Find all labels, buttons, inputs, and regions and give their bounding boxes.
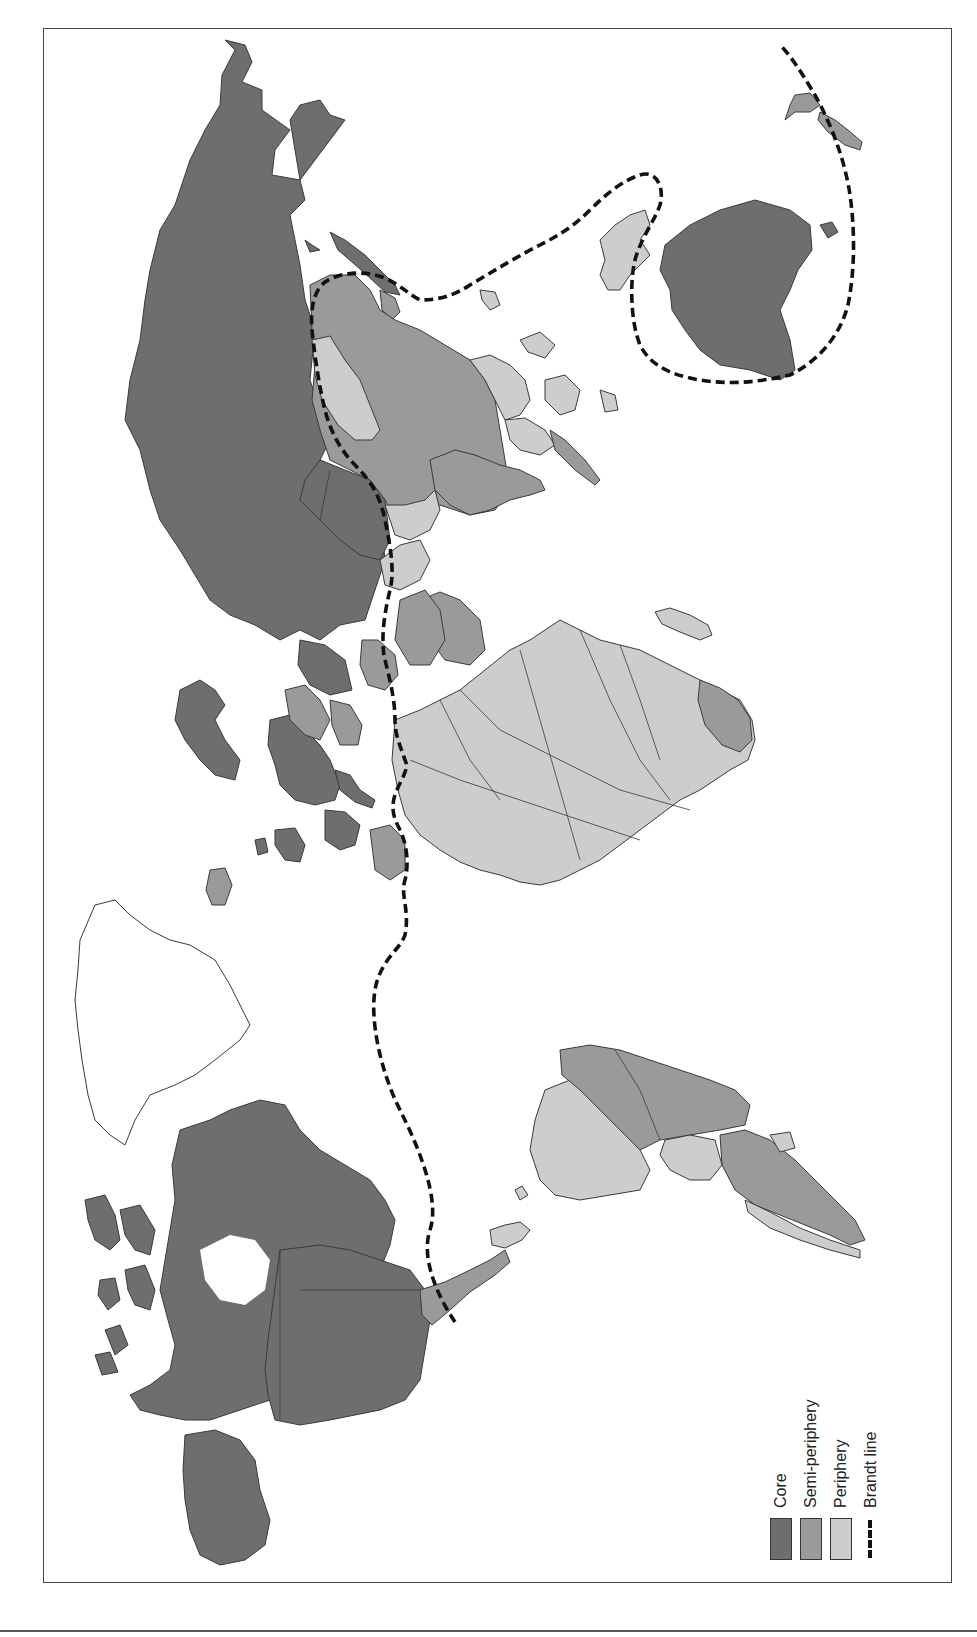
legend-item-semi-periphery: Semi-periphery xyxy=(800,1330,826,1560)
brandt-line-swatch-icon xyxy=(868,1520,872,1558)
region-usa xyxy=(265,1245,430,1425)
region-arctic-islands-1 xyxy=(85,1195,120,1250)
region-bolivia-paraguay xyxy=(660,1135,722,1180)
region-arctic-islands-4 xyxy=(98,1278,120,1310)
region-new-zealand-south xyxy=(818,112,862,150)
legend: Core Semi-periphery Periphery Brandt lin… xyxy=(770,1330,940,1560)
legend-label-semi-periphery: Semi-periphery xyxy=(802,1400,820,1508)
region-ireland xyxy=(255,838,268,855)
region-uk xyxy=(275,828,305,862)
region-arctic-islands-5 xyxy=(105,1325,128,1355)
periphery-swatch xyxy=(830,1518,852,1560)
region-new-guinea xyxy=(600,210,650,290)
region-sulawesi xyxy=(520,332,555,358)
region-sakhalin xyxy=(305,240,320,252)
legend-item-periphery: Periphery xyxy=(830,1330,856,1560)
region-caribbean xyxy=(515,1186,528,1200)
region-philippines xyxy=(480,290,500,310)
region-indochina xyxy=(505,418,555,455)
region-greenland xyxy=(75,900,250,1145)
region-turkey xyxy=(360,640,398,690)
region-iberia xyxy=(325,810,360,850)
region-arctic-islands-2 xyxy=(120,1205,155,1255)
legend-label-core: Core xyxy=(772,1473,790,1508)
region-australia xyxy=(660,200,812,380)
legend-item-core: Core xyxy=(770,1330,796,1560)
region-sumatra xyxy=(550,430,600,485)
core-swatch xyxy=(770,1518,792,1560)
legend-item-brandt-line: Brandt line xyxy=(860,1330,886,1560)
region-arctic-islands-3 xyxy=(125,1265,155,1310)
region-alaska xyxy=(183,1430,270,1565)
region-russia-far-east xyxy=(290,100,345,180)
legend-label-brandt-line: Brandt line xyxy=(862,1432,880,1509)
region-borneo xyxy=(545,375,580,415)
region-italy xyxy=(335,770,375,808)
region-arctic-islands-6 xyxy=(95,1352,118,1375)
region-morocco xyxy=(370,825,405,880)
region-balkans xyxy=(330,700,362,745)
region-mexico xyxy=(420,1250,510,1325)
region-central-america xyxy=(490,1222,530,1248)
region-tasmania xyxy=(820,222,838,238)
region-java xyxy=(600,390,618,412)
semi-periphery-swatch xyxy=(800,1518,822,1560)
region-madagascar xyxy=(655,608,712,640)
legend-label-periphery: Periphery xyxy=(832,1440,850,1508)
region-scandinavia xyxy=(175,680,240,780)
region-iceland xyxy=(206,868,232,905)
region-iran xyxy=(380,540,430,590)
